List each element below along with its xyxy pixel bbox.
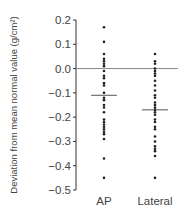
data-point: [103, 177, 106, 180]
y-tick-label: 0.2: [55, 14, 71, 26]
data-point: [154, 111, 157, 114]
data-point: [103, 96, 106, 99]
data-point: [103, 58, 106, 61]
y-tick-label: −0.2: [48, 111, 71, 123]
data-point: [154, 53, 157, 56]
data-point: [154, 147, 157, 150]
data-point: [154, 84, 157, 87]
data-point: [103, 111, 106, 114]
data-point: [154, 145, 157, 148]
y-tick-label: −0.4: [48, 160, 71, 172]
x-category-label: AP: [96, 195, 112, 207]
data-point: [103, 26, 106, 29]
data-point: [103, 92, 106, 95]
data-point: [103, 82, 106, 85]
data-point: [103, 121, 106, 124]
data-point: [154, 106, 157, 109]
data-point: [154, 89, 157, 92]
data-point: [154, 75, 157, 78]
data-point: [154, 135, 157, 138]
data-point: [154, 94, 157, 97]
chart-svg: 0.20.10.0−0.1−0.2−0.3−0.4−0.5APLateral: [0, 0, 186, 213]
data-point: [103, 77, 106, 80]
data-point: [154, 128, 157, 131]
data-point: [154, 121, 157, 124]
data-point: [103, 65, 106, 68]
data-point: [103, 84, 106, 87]
data-point: [103, 62, 106, 65]
data-point: [154, 104, 157, 107]
data-point: [103, 118, 106, 121]
data-point: [154, 113, 157, 116]
data-point: [154, 118, 157, 121]
data-point: [154, 67, 157, 70]
y-tick-label: −0.5: [48, 184, 71, 196]
data-point: [103, 75, 106, 78]
data-point: [103, 41, 106, 44]
data-point: [103, 123, 106, 126]
data-point: [154, 60, 157, 63]
data-point: [103, 126, 106, 129]
data-point: [154, 155, 157, 158]
data-point: [154, 62, 157, 65]
data-point: [103, 130, 106, 133]
data-point: [154, 126, 157, 129]
y-tick-label: −0.3: [48, 135, 71, 147]
data-point: [154, 79, 157, 82]
data-point: [103, 70, 106, 73]
data-point: [154, 70, 157, 73]
data-point: [154, 72, 157, 75]
y-tick-label: 0.0: [55, 63, 71, 75]
data-point: [103, 53, 106, 56]
dot-plot-chart: 0.20.10.0−0.1−0.2−0.3−0.4−0.5APLateral: [0, 0, 186, 213]
x-category-label: Lateral: [137, 195, 172, 207]
data-point: [103, 60, 106, 63]
y-tick-label: 0.1: [55, 38, 71, 50]
data-point: [103, 99, 106, 102]
data-point: [154, 177, 157, 180]
y-axis-label: Deviation from mean normal value (g/cm²): [8, 16, 19, 193]
data-point: [103, 106, 106, 109]
data-point: [154, 150, 157, 153]
data-point: [103, 128, 106, 131]
y-tick-label: −0.1: [48, 87, 71, 99]
data-point: [154, 96, 157, 99]
data-point: [154, 140, 157, 143]
data-point: [103, 104, 106, 107]
data-point: [154, 101, 157, 104]
data-point: [103, 133, 106, 136]
data-point: [103, 157, 106, 160]
data-point: [103, 138, 106, 141]
